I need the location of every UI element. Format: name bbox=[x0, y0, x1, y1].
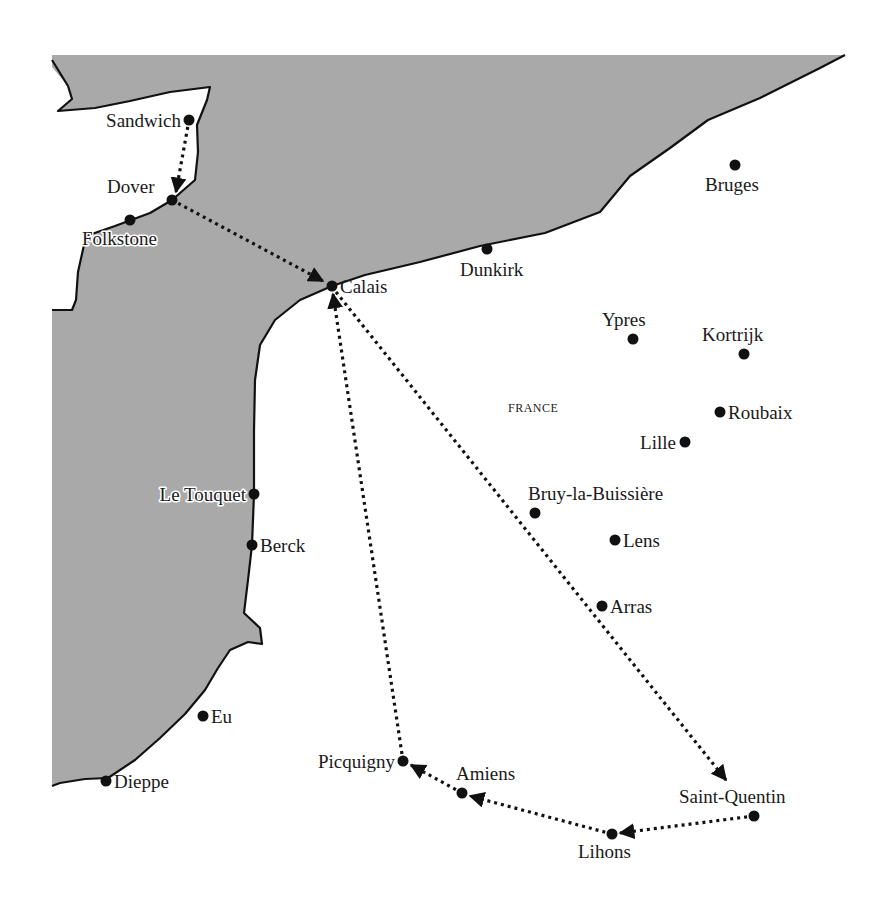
place-label-eu: Eu bbox=[211, 706, 233, 727]
place-marker-lihons[interactable] bbox=[607, 829, 618, 840]
place-marker-dover[interactable] bbox=[167, 195, 178, 206]
place-marker-saint-quentin[interactable] bbox=[749, 811, 760, 822]
place-label-bruges: Bruges bbox=[705, 174, 759, 195]
place-marker-bruges[interactable] bbox=[730, 160, 741, 171]
place-marker-eu[interactable] bbox=[198, 711, 209, 722]
place-marker-dunkirk[interactable] bbox=[482, 244, 493, 255]
place-label-le-touquet: Le Touquet bbox=[160, 484, 247, 505]
place-label-calais: Calais bbox=[340, 276, 388, 297]
place-label-dunkirk: Dunkirk bbox=[460, 259, 524, 280]
place-label-picquigny: Picquigny bbox=[318, 751, 396, 772]
place-label-berck: Berck bbox=[260, 535, 306, 556]
sea-region bbox=[52, 55, 845, 786]
route-segment-calais-saint-quentin bbox=[336, 292, 726, 780]
place-label-kortrijk: Kortrijk bbox=[702, 324, 764, 345]
place-marker-berck[interactable] bbox=[247, 540, 258, 551]
route-segment-amiens-picquigny bbox=[411, 765, 462, 793]
place-marker-ypres[interactable] bbox=[628, 334, 639, 345]
place-marker-roubaix[interactable] bbox=[715, 407, 726, 418]
place-marker-le-touquet[interactable] bbox=[249, 489, 260, 500]
place-label-sandwich: Sandwich bbox=[106, 110, 181, 131]
place-label-lihons: Lihons bbox=[578, 841, 631, 862]
place-marker-bruy-la-buissiere[interactable] bbox=[530, 508, 541, 519]
place-marker-sandwich[interactable] bbox=[184, 115, 195, 126]
place-marker-picquigny[interactable] bbox=[398, 756, 409, 767]
place-label-saint-quentin: Saint-Quentin bbox=[679, 786, 786, 807]
place-marker-arras[interactable] bbox=[597, 601, 608, 612]
place-marker-calais[interactable] bbox=[327, 281, 338, 292]
place-label-bruy-la-buissiere: Bruy-la-Buissière bbox=[528, 483, 663, 504]
place-label-arras: Arras bbox=[610, 596, 652, 617]
route-segment-lihons-amiens bbox=[470, 796, 612, 834]
place-marker-kortrijk[interactable] bbox=[739, 349, 750, 360]
place-marker-folkstone[interactable] bbox=[125, 215, 136, 226]
country-label-france: FRANCE bbox=[508, 401, 558, 415]
place-label-dover: Dover bbox=[107, 176, 155, 197]
place-label-lens: Lens bbox=[623, 530, 660, 551]
place-marker-dieppe[interactable] bbox=[101, 776, 112, 787]
route-segment-saint-quentin-lihons bbox=[620, 816, 754, 833]
place-marker-lens[interactable] bbox=[610, 535, 621, 546]
place-label-dieppe: Dieppe bbox=[114, 771, 169, 792]
place-marker-amiens[interactable] bbox=[457, 788, 468, 799]
map-canvas: FRANCE Sandwich Dover Folkstone Calais D… bbox=[0, 0, 887, 902]
place-label-lille: Lille bbox=[640, 432, 676, 453]
place-label-folkstone: Folkstone bbox=[82, 228, 157, 249]
place-label-roubaix: Roubaix bbox=[728, 402, 793, 423]
place-marker-lille[interactable] bbox=[680, 437, 691, 448]
place-label-amiens: Amiens bbox=[456, 763, 515, 784]
place-label-ypres: Ypres bbox=[602, 309, 646, 330]
